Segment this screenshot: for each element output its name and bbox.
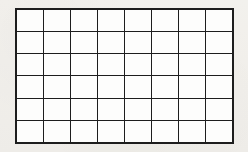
- grid-cell[interactable]: [71, 54, 98, 76]
- grid-cell[interactable]: [98, 10, 125, 32]
- grid-cell-label: [152, 10, 178, 31]
- grid-cell-label: [71, 99, 97, 120]
- grid-cell[interactable]: [98, 32, 125, 54]
- grid-cell-label: [17, 121, 43, 142]
- grid-table-body: [17, 10, 233, 143]
- grid-cell-label: [98, 99, 124, 120]
- grid-cell-label: [206, 54, 232, 75]
- grid-cell-label: [125, 99, 151, 120]
- grid-cell-label: [179, 76, 205, 97]
- page-canvas: [0, 0, 248, 152]
- grid-cell-label: [44, 10, 70, 31]
- grid-cell[interactable]: [44, 10, 71, 32]
- table-row: [17, 98, 233, 120]
- table-row: [17, 54, 233, 76]
- grid-cell[interactable]: [71, 10, 98, 32]
- grid-cell[interactable]: [17, 98, 44, 120]
- grid-cell-label: [44, 121, 70, 142]
- grid-cell-label: [179, 32, 205, 53]
- grid-cell[interactable]: [206, 32, 233, 54]
- grid-cell[interactable]: [71, 98, 98, 120]
- grid-cell[interactable]: [17, 32, 44, 54]
- grid-cell-label: [206, 121, 232, 142]
- grid-cell[interactable]: [44, 76, 71, 98]
- grid-cell[interactable]: [44, 54, 71, 76]
- grid-cell[interactable]: [17, 76, 44, 98]
- grid-cell-label: [125, 10, 151, 31]
- grid-cell-label: [206, 10, 232, 31]
- grid-cell-label: [152, 121, 178, 142]
- grid-cell[interactable]: [179, 120, 206, 142]
- grid-cell[interactable]: [44, 120, 71, 142]
- grid-cell-label: [152, 32, 178, 53]
- grid-cell[interactable]: [125, 98, 152, 120]
- grid-cell[interactable]: [152, 54, 179, 76]
- grid-cell[interactable]: [98, 98, 125, 120]
- grid-cell-label: [125, 76, 151, 97]
- grid-cell-label: [44, 32, 70, 53]
- grid-cell[interactable]: [206, 76, 233, 98]
- table-row: [17, 32, 233, 54]
- grid-cell-label: [17, 54, 43, 75]
- grid-cell-label: [71, 76, 97, 97]
- grid-cell[interactable]: [125, 10, 152, 32]
- grid-cell-label: [17, 10, 43, 31]
- grid-cell-label: [71, 32, 97, 53]
- grid-cell-label: [98, 76, 124, 97]
- grid-cell-label: [206, 76, 232, 97]
- grid-cell-label: [44, 54, 70, 75]
- grid-cell-label: [125, 54, 151, 75]
- grid-cell-label: [206, 32, 232, 53]
- grid-cell-label: [152, 99, 178, 120]
- grid-cell[interactable]: [44, 98, 71, 120]
- grid-cell-label: [179, 99, 205, 120]
- grid-cell-label: [17, 76, 43, 97]
- grid-cell-label: [98, 10, 124, 31]
- grid-figure: [16, 9, 233, 143]
- grid-cell[interactable]: [152, 98, 179, 120]
- grid-cell[interactable]: [152, 120, 179, 142]
- grid-table: [16, 9, 233, 143]
- grid-cell[interactable]: [179, 76, 206, 98]
- grid-cell[interactable]: [125, 120, 152, 142]
- grid-cell-label: [152, 76, 178, 97]
- grid-cell[interactable]: [17, 10, 44, 32]
- table-row: [17, 10, 233, 32]
- grid-cell-label: [152, 54, 178, 75]
- grid-cell-label: [71, 54, 97, 75]
- grid-cell[interactable]: [125, 54, 152, 76]
- grid-cell-label: [71, 10, 97, 31]
- grid-cell[interactable]: [17, 120, 44, 142]
- grid-cell[interactable]: [71, 76, 98, 98]
- grid-cell[interactable]: [179, 32, 206, 54]
- grid-cell-label: [98, 121, 124, 142]
- grid-cell[interactable]: [152, 76, 179, 98]
- grid-cell[interactable]: [125, 32, 152, 54]
- grid-cell-label: [125, 121, 151, 142]
- table-row: [17, 76, 233, 98]
- grid-cell-label: [125, 32, 151, 53]
- grid-cell[interactable]: [206, 54, 233, 76]
- grid-cell-label: [71, 121, 97, 142]
- grid-cell[interactable]: [179, 10, 206, 32]
- grid-cell[interactable]: [179, 98, 206, 120]
- grid-cell-label: [179, 54, 205, 75]
- grid-cell-label: [179, 121, 205, 142]
- grid-cell[interactable]: [179, 54, 206, 76]
- grid-cell[interactable]: [152, 10, 179, 32]
- grid-cell[interactable]: [71, 32, 98, 54]
- grid-cell[interactable]: [125, 76, 152, 98]
- grid-cell[interactable]: [152, 32, 179, 54]
- grid-cell[interactable]: [44, 32, 71, 54]
- grid-cell[interactable]: [98, 76, 125, 98]
- grid-cell[interactable]: [206, 10, 233, 32]
- grid-cell-label: [44, 99, 70, 120]
- grid-cell-label: [206, 99, 232, 120]
- grid-cell-label: [98, 54, 124, 75]
- grid-cell[interactable]: [98, 120, 125, 142]
- grid-cell[interactable]: [206, 120, 233, 142]
- grid-cell[interactable]: [98, 54, 125, 76]
- grid-cell[interactable]: [17, 54, 44, 76]
- grid-cell[interactable]: [206, 98, 233, 120]
- grid-cell[interactable]: [71, 120, 98, 142]
